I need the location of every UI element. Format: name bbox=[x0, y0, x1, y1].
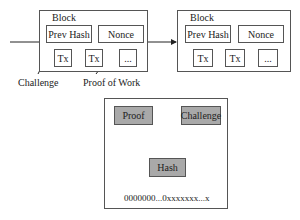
block-title: Block bbox=[190, 12, 214, 23]
hash-box: Hash bbox=[149, 158, 186, 177]
nonce-field: Nonce bbox=[238, 25, 284, 43]
challenge-box: Challenge bbox=[181, 106, 221, 125]
tx-box: Tx bbox=[85, 49, 103, 67]
ellipsis-box: ... bbox=[258, 49, 278, 67]
tx-box: Tx bbox=[54, 49, 72, 67]
hash-panel: Proof Challenge Hash 0000000...0xxxxxxx.… bbox=[104, 98, 228, 209]
ellipsis-box: ... bbox=[119, 49, 137, 67]
proof-of-work-annotation: Proof of Work bbox=[83, 77, 140, 88]
tx-box: Tx bbox=[225, 49, 245, 67]
challenge-annotation: Challenge bbox=[18, 77, 59, 88]
block-1: Block Prev Hash Nonce Tx Tx ... bbox=[39, 10, 148, 72]
prev-hash-field: Prev Hash bbox=[185, 25, 231, 43]
prev-hash-field: Prev Hash bbox=[46, 25, 92, 43]
nonce-field: Nonce bbox=[98, 25, 144, 43]
proof-box: Proof bbox=[114, 106, 153, 125]
block-2: Block Prev Hash Nonce Tx Tx ... bbox=[177, 10, 291, 72]
hash-output: 0000000...0xxxxxxx...x bbox=[124, 193, 210, 203]
block-title: Block bbox=[52, 12, 76, 23]
tx-box: Tx bbox=[193, 49, 213, 67]
